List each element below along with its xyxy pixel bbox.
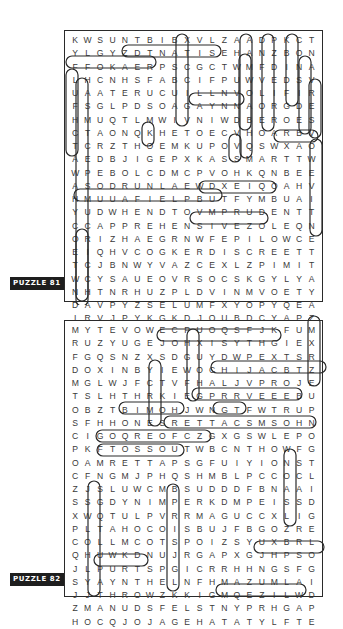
grid-cell[interactable]: R xyxy=(119,563,131,576)
grid-cell[interactable]: E xyxy=(268,390,280,403)
grid-cell[interactable]: L xyxy=(231,470,243,483)
grid-cell[interactable]: U xyxy=(156,549,168,562)
grid-cell[interactable]: O xyxy=(268,523,280,536)
grid-cell[interactable]: Z xyxy=(156,589,168,602)
grid-cell[interactable]: T xyxy=(94,324,106,337)
grid-cell[interactable]: D xyxy=(218,351,230,364)
grid-cell[interactable]: T xyxy=(193,417,205,430)
grid-cell[interactable]: S xyxy=(293,496,305,509)
grid-cell[interactable]: E xyxy=(280,390,292,403)
grid-cell[interactable]: U xyxy=(293,404,305,417)
grid-cell[interactable]: Z xyxy=(94,337,106,350)
grid-cell[interactable]: I xyxy=(144,496,156,509)
grid-cell[interactable]: A xyxy=(293,483,305,496)
grid-cell[interactable]: G xyxy=(243,549,255,562)
grid-cell[interactable]: D xyxy=(106,496,118,509)
grid-cell[interactable]: U xyxy=(94,549,106,562)
grid-cell[interactable]: T xyxy=(156,536,168,549)
grid-cell[interactable]: Y xyxy=(81,576,93,589)
grid-cell[interactable]: U xyxy=(193,324,205,337)
grid-cell[interactable]: R xyxy=(293,523,305,536)
grid-cell[interactable]: Y xyxy=(106,576,118,589)
grid-cell[interactable]: G xyxy=(94,430,106,443)
grid-cell[interactable]: I xyxy=(231,364,243,377)
grid-cell[interactable]: P xyxy=(169,496,181,509)
grid-cell[interactable]: V xyxy=(169,377,181,390)
grid-cell[interactable]: E xyxy=(106,324,118,337)
grid-cell[interactable]: M xyxy=(218,576,230,589)
grid-cell[interactable]: T xyxy=(243,337,255,350)
grid-cell[interactable]: H xyxy=(81,549,93,562)
grid-cell[interactable]: G xyxy=(193,457,205,470)
grid-cell[interactable]: C xyxy=(131,536,143,549)
grid-cell[interactable]: I xyxy=(268,496,280,509)
grid-cell[interactable]: M xyxy=(69,324,81,337)
grid-cell[interactable]: L xyxy=(280,576,292,589)
grid-cell[interactable]: O xyxy=(169,337,181,350)
grid-cell[interactable]: S xyxy=(231,536,243,549)
grid-cell[interactable]: M xyxy=(305,324,317,337)
grid-cell[interactable]: F xyxy=(81,417,93,430)
grid-cell[interactable]: Y xyxy=(256,616,268,629)
grid-cell[interactable]: B xyxy=(119,404,131,417)
grid-cell[interactable]: B xyxy=(131,364,143,377)
grid-cell[interactable]: H xyxy=(293,417,305,430)
grid-cell[interactable]: G xyxy=(268,337,280,350)
grid-cell[interactable]: A xyxy=(231,576,243,589)
grid-cell[interactable]: C xyxy=(256,510,268,523)
grid-cell[interactable]: O xyxy=(131,616,143,629)
grid-cell[interactable]: Y xyxy=(119,496,131,509)
grid-cell[interactable]: G xyxy=(106,470,118,483)
grid-cell[interactable]: L xyxy=(81,523,93,536)
grid-cell[interactable]: O xyxy=(131,523,143,536)
grid-cell[interactable]: I xyxy=(256,457,268,470)
grid-cell[interactable]: C xyxy=(69,430,81,443)
grid-cell[interactable]: S xyxy=(181,523,193,536)
grid-cell[interactable]: O xyxy=(119,443,131,456)
grid-cell[interactable]: R xyxy=(106,457,118,470)
grid-cell[interactable]: G xyxy=(256,523,268,536)
grid-cell[interactable]: S xyxy=(131,443,143,456)
grid-cell[interactable]: I xyxy=(305,576,317,589)
grid-cell[interactable]: T xyxy=(106,510,118,523)
grid-cell[interactable]: J xyxy=(243,364,255,377)
grid-cell[interactable]: O xyxy=(69,404,81,417)
grid-cell[interactable]: H xyxy=(193,377,205,390)
grid-cell[interactable]: X xyxy=(268,351,280,364)
grid-cell[interactable]: O xyxy=(131,324,143,337)
grid-cell[interactable]: C xyxy=(69,470,81,483)
grid-cell[interactable]: S xyxy=(69,496,81,509)
grid-cell[interactable]: L xyxy=(305,470,317,483)
grid-cell[interactable]: Z xyxy=(218,536,230,549)
grid-cell[interactable]: U xyxy=(293,324,305,337)
grid-cell[interactable]: J xyxy=(293,377,305,390)
grid-cell[interactable]: I xyxy=(206,337,218,350)
grid-cell[interactable]: C xyxy=(193,563,205,576)
grid-cell[interactable]: K xyxy=(156,390,168,403)
grid-cell[interactable]: G xyxy=(193,390,205,403)
grid-cell[interactable]: H xyxy=(106,417,118,430)
grid-cell[interactable]: S xyxy=(293,549,305,562)
grid-cell[interactable]: M xyxy=(193,510,205,523)
grid-cell[interactable]: T xyxy=(293,616,305,629)
grid-cell[interactable]: H xyxy=(106,589,118,602)
grid-cell[interactable]: F xyxy=(94,443,106,456)
grid-cell[interactable]: R xyxy=(268,377,280,390)
grid-cell[interactable]: T xyxy=(280,351,292,364)
grid-cell[interactable]: K xyxy=(81,443,93,456)
grid-cell[interactable]: F xyxy=(156,602,168,615)
grid-cell[interactable]: X xyxy=(231,549,243,562)
grid-cell[interactable]: S xyxy=(69,576,81,589)
grid-cell[interactable]: F xyxy=(280,616,292,629)
grid-cell[interactable]: G xyxy=(280,602,292,615)
grid-cell[interactable]: C xyxy=(243,510,255,523)
grid-cell[interactable]: A xyxy=(81,457,93,470)
grid-cell[interactable]: R xyxy=(218,563,230,576)
grid-cell[interactable]: I xyxy=(280,337,292,350)
grid-cell[interactable]: I xyxy=(293,510,305,523)
grid-cell[interactable]: P xyxy=(144,510,156,523)
grid-cell[interactable]: B xyxy=(218,470,230,483)
grid-cell[interactable]: U xyxy=(206,523,218,536)
grid-cell[interactable]: F xyxy=(206,457,218,470)
grid-cell[interactable]: Y xyxy=(243,457,255,470)
